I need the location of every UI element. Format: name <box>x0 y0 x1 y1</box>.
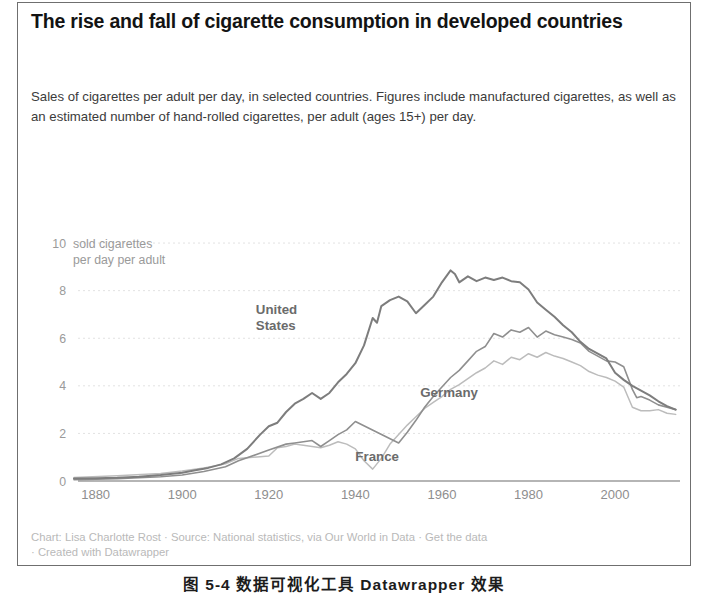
y-axis-title-line1: sold cigarettes <box>73 237 152 251</box>
series-label-united-states: States <box>256 318 296 333</box>
page-title: The rise and fall of cigarette consumpti… <box>31 9 651 34</box>
series-line-united-states <box>74 270 676 478</box>
y-axis-tick-4: 4 <box>59 379 66 393</box>
series-label-france: France <box>355 449 399 464</box>
figure-caption-text: 图 5-4 数据可视化工具 Datawrapper 效果 <box>183 575 505 594</box>
figure-caption: 图 5-4 数据可视化工具 Datawrapper 效果 <box>0 575 703 596</box>
y-axis-tick-8: 8 <box>59 284 66 298</box>
y-axis-tick-2: 2 <box>59 427 66 441</box>
series-label-united-states: United <box>256 302 297 317</box>
footer-datawrapper-line[interactable]: · Created with Datawrapper <box>31 545 681 560</box>
chart-footer: Chart: Lisa Charlotte Rost · Source: Nat… <box>31 530 681 559</box>
line-chart: 0246810sold cigarettesper day per adult1… <box>18 183 691 513</box>
footer-credit-line[interactable]: Chart: Lisa Charlotte Rost · Source: Nat… <box>31 530 681 545</box>
chart-subtitle: Sales of cigarettes per adult per day, i… <box>31 87 679 127</box>
y-axis-tick-6: 6 <box>59 332 66 346</box>
y-axis-tick-0: 0 <box>59 475 66 489</box>
x-axis-tick-1920: 1920 <box>254 487 283 502</box>
x-axis-tick-1960: 1960 <box>427 487 456 502</box>
chart-card-inner: The rise and fall of cigarette consumpti… <box>18 3 690 565</box>
x-axis-tick-1880: 1880 <box>81 487 110 502</box>
series-label-germany: Germany <box>420 385 478 400</box>
x-axis-tick-2000: 2000 <box>601 487 630 502</box>
y-axis-tick-10: 10 <box>52 237 66 251</box>
chart-card: The rise and fall of cigarette consumpti… <box>17 2 691 566</box>
x-axis-tick-1940: 1940 <box>341 487 370 502</box>
y-axis-title-line2: per day per adult <box>73 253 166 267</box>
chart-plot-area: 0246810sold cigarettesper day per adult1… <box>18 183 691 513</box>
x-axis-tick-1980: 1980 <box>514 487 543 502</box>
x-axis-tick-1900: 1900 <box>168 487 197 502</box>
